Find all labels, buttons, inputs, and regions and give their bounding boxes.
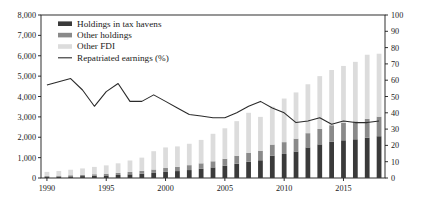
bar-segment	[282, 154, 287, 178]
x-axis-tick-label: 2010	[276, 184, 292, 193]
bar-segment	[282, 99, 287, 143]
bar-segment	[56, 177, 61, 178]
bar-segment	[341, 123, 346, 140]
bar-segment	[282, 142, 287, 154]
bar-segment	[56, 176, 61, 177]
bar-segment	[116, 175, 121, 178]
bar-segment	[163, 147, 168, 168]
legend-swatch	[58, 21, 72, 26]
left-axis-tick-label: 4,000	[18, 93, 36, 102]
bar-segment	[116, 173, 121, 175]
legend-label: Other FDI	[77, 41, 115, 51]
legend-swatch	[58, 33, 72, 38]
bar-segment	[353, 121, 358, 139]
bar-segment	[199, 163, 204, 169]
chart-canvas: 01,0002,0003,0004,0005,0006,0007,0008,00…	[0, 0, 426, 214]
bar-segment	[92, 167, 97, 174]
bar-segment	[246, 162, 251, 178]
bar-segment	[317, 144, 322, 178]
bar-segment	[139, 171, 144, 174]
bar-segment	[258, 160, 263, 178]
bar-segment	[270, 156, 275, 178]
bar-segment	[128, 160, 133, 171]
bar-segment	[128, 174, 133, 178]
right-axis: 0102030405060708090100	[385, 11, 403, 183]
bar-segment	[80, 168, 85, 174]
right-axis-tick-label: 100	[391, 11, 403, 20]
bar-segment	[341, 66, 346, 123]
bar-segment	[294, 92, 299, 138]
bar-segment	[45, 177, 50, 178]
bar-segment	[377, 54, 382, 117]
legend-swatch	[58, 44, 72, 49]
bar-segment	[187, 144, 192, 165]
bar-segment	[329, 70, 334, 125]
right-axis-tick-label: 40	[391, 109, 399, 118]
bar-segment	[104, 174, 109, 176]
right-axis-tick-label: 60	[391, 76, 399, 85]
bar-segment	[187, 165, 192, 170]
bar-segment	[80, 175, 85, 176]
right-axis-tick-label: 90	[391, 27, 399, 36]
bar-segment	[151, 173, 156, 178]
bar-segment	[139, 158, 144, 171]
bar-segment	[116, 163, 121, 173]
bar-segment	[246, 153, 251, 162]
bar-segment	[199, 169, 204, 178]
bar-segment	[306, 84, 311, 133]
bar-segment	[222, 166, 227, 178]
bar-segment	[68, 176, 73, 178]
left-axis-tick-label: 5,000	[18, 72, 36, 81]
bar-segment	[234, 164, 239, 178]
bar-segment	[68, 175, 73, 176]
bar-segment	[234, 156, 239, 164]
right-axis-tick-label: 20	[391, 141, 399, 150]
bar-segment	[175, 171, 180, 178]
bar-segment	[306, 133, 311, 147]
bar-segment	[80, 176, 85, 178]
bar-segment	[270, 145, 275, 156]
right-axis-tick-label: 50	[391, 93, 399, 102]
left-axis-tick-label: 7,000	[18, 31, 36, 40]
right-axis-tick-label: 80	[391, 44, 399, 53]
bar-segment	[56, 171, 61, 176]
bar-segment	[211, 134, 216, 162]
bar-segment	[68, 170, 73, 176]
bar-segment	[222, 159, 227, 166]
bar-segment	[365, 55, 370, 119]
bar-segment	[128, 172, 133, 174]
bar-segment	[45, 176, 50, 177]
bar-segment	[163, 172, 168, 178]
bar-segment	[353, 62, 358, 121]
legend-label: Holdings in tax havens	[77, 19, 162, 29]
right-axis-tick-label: 70	[391, 60, 399, 69]
bar-segment	[151, 170, 156, 173]
right-axis-tick-label: 10	[391, 158, 399, 167]
bar-segment	[104, 175, 109, 178]
bar-segment	[175, 146, 180, 166]
x-axis-tick-label: 1995	[98, 184, 114, 193]
left-axis-tick-label: 6,000	[18, 52, 36, 61]
bar-segment	[104, 165, 109, 173]
bar-segment	[139, 174, 144, 178]
bar-segment	[187, 170, 192, 178]
x-axis-tick-label: 2005	[217, 184, 233, 193]
bar-segment	[258, 151, 263, 161]
bar-segment	[329, 125, 334, 142]
bar-segment	[306, 147, 311, 178]
bar-segment	[45, 172, 50, 176]
bar-segment	[92, 176, 97, 178]
bar-segment	[294, 152, 299, 178]
left-axis-tick-label: 2,000	[18, 133, 36, 142]
bar-segment	[270, 107, 275, 145]
left-axis-tick-label: 8,000	[18, 11, 36, 20]
right-axis-tick-label: 0	[391, 174, 395, 183]
x-axis: 199019952000200520102015	[39, 178, 352, 193]
x-axis-tick-label: 2000	[157, 184, 173, 193]
left-axis: 01,0002,0003,0004,0005,0006,0007,0008,00…	[18, 11, 41, 183]
legend-label: Other holdings	[77, 30, 132, 40]
bar-segment	[377, 117, 382, 137]
bar-segment	[317, 129, 322, 144]
bar-segment	[353, 139, 358, 178]
bar-segment	[163, 168, 168, 172]
